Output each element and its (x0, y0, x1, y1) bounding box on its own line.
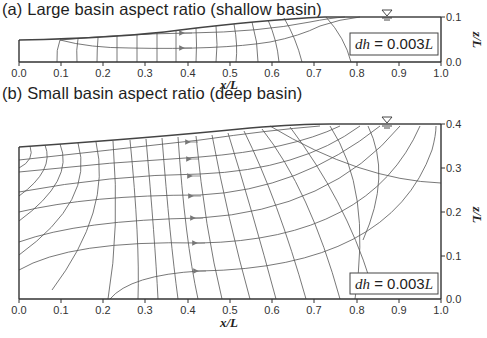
svg-text:0.3: 0.3 (446, 162, 461, 174)
panel-a-y-tick-labels: 0.1 0.0 (446, 11, 461, 68)
panel-a-y-axis-label: z/L (470, 31, 485, 49)
panel-a-equipotentials (57, 17, 351, 62)
panel-a-flowlines (60, 17, 360, 48)
svg-text:0.8: 0.8 (349, 304, 364, 316)
svg-text:0.9: 0.9 (391, 67, 406, 79)
panel-a-dh-annotation: dh = 0.003L (350, 33, 438, 55)
svg-text:0.2: 0.2 (95, 304, 110, 316)
panel-b-plot: 0.0 0.1 0.2 0.3 0.4 0.5 0.6 0.7 0.8 0.9 … (11, 117, 485, 330)
flow-net-figure: 0.0 0.1 0.2 0.3 0.4 0.5 0.6 0.7 0.8 0.9 … (0, 0, 487, 338)
svg-text:0.0: 0.0 (446, 293, 461, 305)
water-table-triangle-icon (382, 10, 392, 20)
panel-b-flow-arrows (188, 142, 206, 271)
svg-text:0.1: 0.1 (53, 304, 68, 316)
panel-b-y-axis-label: z/L (470, 206, 485, 224)
water-table-triangle-icon (382, 117, 392, 128)
svg-text:0.2: 0.2 (446, 206, 461, 218)
panel-a-x-axis-label: x/L (219, 77, 238, 92)
svg-text:0.3: 0.3 (137, 304, 152, 316)
panel-b-y-tick-labels: 0.4 0.3 0.2 0.1 0.0 (446, 118, 461, 305)
svg-text:0.4: 0.4 (446, 118, 461, 130)
svg-text:1.0: 1.0 (433, 304, 448, 316)
svg-text:0.1: 0.1 (446, 11, 461, 23)
panel-b-dh-annotation: dh = 0.003L (350, 273, 438, 294)
svg-text:0.1: 0.1 (53, 67, 68, 79)
svg-text:0.3: 0.3 (137, 67, 152, 79)
svg-text:0.1: 0.1 (446, 250, 461, 262)
svg-text:dh = 0.003L: dh = 0.003L (355, 35, 433, 52)
panel-b-x-axis-label: x/L (219, 315, 238, 330)
svg-text:1.0: 1.0 (433, 67, 448, 79)
svg-text:0.0: 0.0 (446, 56, 461, 68)
svg-text:0.9: 0.9 (391, 304, 406, 316)
svg-text:0.0: 0.0 (11, 304, 26, 316)
svg-text:0.6: 0.6 (264, 304, 279, 316)
svg-text:0.0: 0.0 (11, 67, 26, 79)
panel-b-equipotentials (19, 126, 379, 299)
svg-text:0.4: 0.4 (180, 67, 195, 79)
svg-text:0.7: 0.7 (306, 67, 321, 79)
svg-text:0.7: 0.7 (306, 304, 321, 316)
panel-a-plot: 0.0 0.1 0.2 0.3 0.4 0.5 0.6 0.7 0.8 0.9 … (11, 10, 485, 92)
svg-text:0.2: 0.2 (95, 67, 110, 79)
svg-text:0.4: 0.4 (180, 304, 195, 316)
svg-text:0.8: 0.8 (349, 67, 364, 79)
svg-text:dh = 0.003L: dh = 0.003L (355, 275, 433, 292)
svg-text:0.6: 0.6 (264, 67, 279, 79)
